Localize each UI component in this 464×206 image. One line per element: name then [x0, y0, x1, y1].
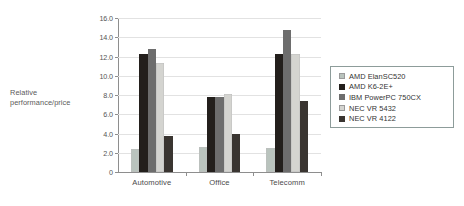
legend-item[interactable]: AMD ElanSC520	[339, 71, 453, 82]
bar-chart-figure: Relative performance/price 02.04.06.08.0…	[0, 0, 464, 206]
x-axis-line	[118, 172, 321, 173]
x-tick-mark	[253, 172, 254, 176]
y-tick-mark	[115, 95, 118, 96]
y-tick-label: 8.0	[103, 91, 113, 100]
bar	[156, 63, 164, 172]
y-tick-label: 2.0	[103, 148, 113, 157]
legend-item-label: AMD K6-2E+	[349, 82, 393, 91]
legend-swatch-icon	[339, 94, 345, 100]
bar	[232, 134, 240, 172]
legend-box: AMD ElanSC520AMD K6-2E+IBM PowerPC 750CX…	[330, 66, 454, 128]
y-tick-label: 12.0	[99, 52, 113, 61]
bar	[199, 147, 207, 172]
x-tick-label-telecomm: Telecomm	[269, 178, 304, 187]
legend-swatch-icon	[339, 84, 345, 90]
y-tick-label: 16.0	[99, 14, 113, 23]
x-tick-label-automotive: Automotive	[132, 178, 171, 187]
y-tick-mark	[115, 18, 118, 19]
bar	[224, 94, 232, 172]
y-tick-mark	[115, 153, 118, 154]
y-tick-mark	[115, 76, 118, 77]
y-tick-mark	[115, 114, 118, 115]
bar	[300, 101, 308, 172]
bar	[291, 54, 299, 172]
bar	[131, 149, 139, 172]
y-tick-mark	[115, 37, 118, 38]
plot-area: 02.04.06.08.010.012.014.016.0 Automotive…	[118, 18, 321, 173]
bar	[148, 49, 156, 172]
legend-item-label: NEC VR 4122	[349, 114, 396, 123]
y-axis-title: Relative performance/price	[10, 88, 105, 107]
y-axis-title-line-1: Relative	[10, 88, 105, 98]
y-tick-mark	[115, 172, 118, 173]
legend-swatch-icon	[339, 105, 345, 111]
legend-item[interactable]: NEC VR 5432	[339, 103, 453, 114]
x-tick-label-office: Office	[209, 178, 229, 187]
y-tick-label: 4.0	[103, 129, 113, 138]
y-tick-label: 0	[109, 168, 113, 177]
gridline	[118, 18, 321, 19]
bar	[283, 30, 291, 172]
legend-swatch-icon	[339, 116, 345, 122]
legend-item-label: AMD ElanSC520	[349, 72, 406, 81]
bar	[215, 97, 223, 172]
y-tick-label: 6.0	[103, 110, 113, 119]
legend-item-label: IBM PowerPC 750CX	[349, 93, 421, 102]
legend-swatch-icon	[339, 73, 345, 79]
bar	[266, 148, 274, 172]
y-tick-mark	[115, 57, 118, 58]
bar	[207, 97, 215, 172]
bar	[275, 54, 283, 172]
legend-item[interactable]: NEC VR 4122	[339, 113, 453, 124]
y-tick-label: 14.0	[99, 33, 113, 42]
x-tick-mark	[186, 172, 187, 176]
bar	[164, 136, 172, 172]
legend-item-label: NEC VR 5432	[349, 104, 396, 113]
legend-item[interactable]: IBM PowerPC 750CX	[339, 92, 453, 103]
legend-item[interactable]: AMD K6-2E+	[339, 82, 453, 93]
y-tick-mark	[115, 134, 118, 135]
y-tick-label: 10.0	[99, 71, 113, 80]
y-axis-title-line-2: performance/price	[10, 98, 105, 108]
bar	[139, 54, 147, 172]
x-tick-mark	[321, 172, 322, 176]
